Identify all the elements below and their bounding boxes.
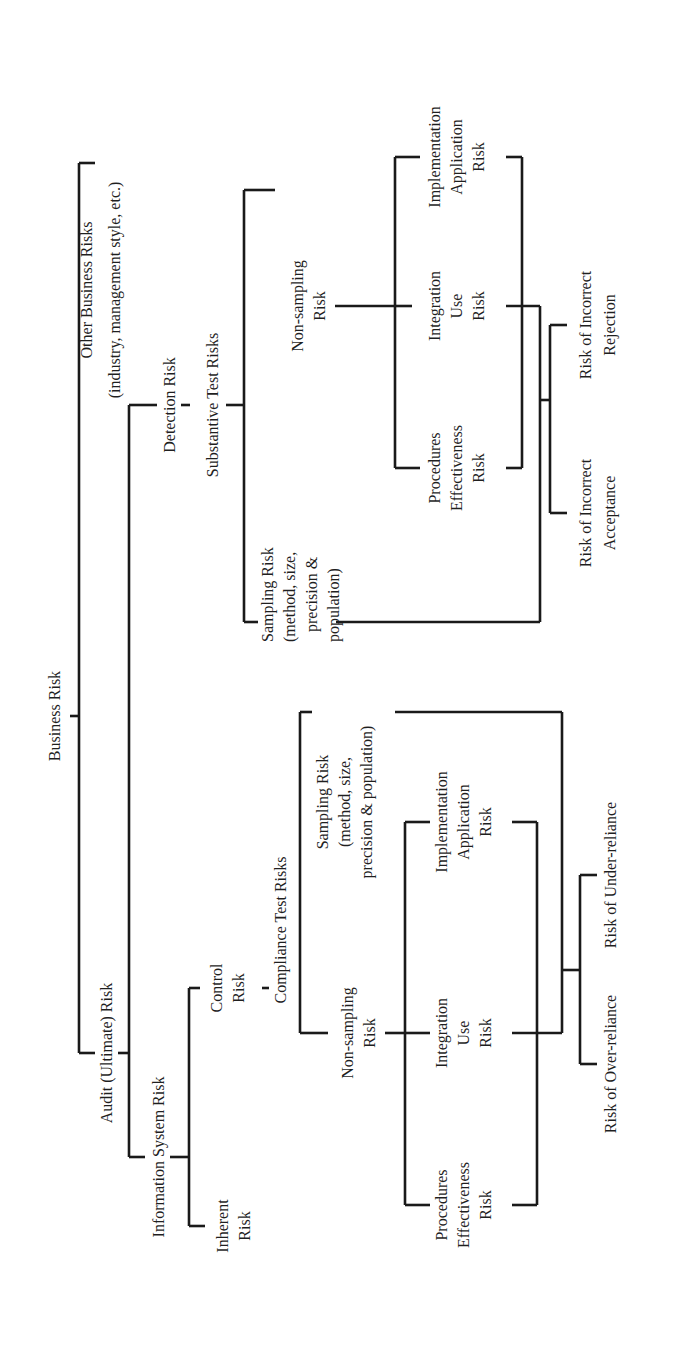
incorrect-rejection-line1: Risk of Incorrect (577, 270, 594, 379)
node-compliance-test-risks: Compliance Test Risks (272, 856, 290, 1003)
inherent-risk-line1: Inherent (214, 1199, 231, 1253)
node-compliance-integration-risk: Integration Use Risk (433, 998, 494, 1068)
detection-risk-label: Detection Risk (161, 357, 178, 453)
control-risk-line1: Control (208, 963, 225, 1012)
node-other-business-risks: Other Business Risks (industry, manageme… (78, 182, 124, 399)
information-system-risk-label: Information System Risk (150, 1077, 168, 1238)
node-substantive-sampling-risk: Sampling Risk (method, size, precision &… (259, 547, 343, 642)
node-audit-risk: Audit (Ultimate) Risk (98, 983, 116, 1123)
compliance-procedures-line3: Risk (477, 1190, 494, 1219)
compliance-integration-line1: Integration (433, 998, 451, 1068)
node-risk-over-reliance: Risk of Over-reliance (602, 995, 619, 1133)
substantive-procedures-line1: Procedures (426, 432, 443, 503)
risk-hierarchy-diagram: Business Risk Other Business Risks (indu… (0, 0, 673, 1351)
node-substantive-implementation-risk: Implementation Application Risk (426, 106, 487, 207)
node-compliance-procedures-risk: Procedures Effectiveness Risk (433, 1162, 494, 1248)
node-compliance-implementation-risk: Implementation Application Risk (433, 771, 494, 872)
substantive-procedures-line2: Effectiveness (448, 425, 465, 511)
node-inherent-risk: Inherent Risk (214, 1199, 253, 1253)
substantive-procedures-line3: Risk (470, 453, 487, 482)
node-substantive-test-risks: Substantive Test Risks (204, 333, 221, 477)
substantive-implementation-line2: Application (448, 119, 466, 195)
under-reliance-label: Risk of Under-reliance (602, 802, 619, 948)
substantive-integration-line3: Risk (470, 291, 487, 320)
other-business-risks-detail: (industry, management style, etc.) (106, 182, 124, 399)
substantive-non-sampling-line2: Risk (311, 291, 328, 320)
compliance-procedures-line2: Effectiveness (455, 1162, 472, 1248)
node-substantive-integration-risk: Integration Use Risk (426, 271, 487, 341)
node-risk-incorrect-acceptance: Risk of Incorrect Acceptance (577, 458, 619, 567)
compliance-implementation-line2: Application (455, 784, 473, 860)
substantive-integration-line1: Integration (426, 271, 444, 341)
substantive-implementation-line1: Implementation (426, 106, 444, 207)
compliance-sampling-line3: precision & population) (358, 726, 376, 879)
business-risk-label: Business Risk (46, 671, 63, 761)
control-risk-line2: Risk (230, 973, 247, 1002)
node-control-risk: Control Risk (208, 963, 247, 1012)
substantive-test-risks-label: Substantive Test Risks (204, 333, 221, 477)
node-compliance-non-sampling-risk: Non-sampling Risk (339, 987, 378, 1079)
compliance-integration-line3: Risk (477, 1018, 494, 1047)
substantive-sampling-line3: precision & (303, 556, 321, 632)
substantive-implementation-line3: Risk (470, 142, 487, 171)
substantive-sampling-line1: Sampling Risk (259, 547, 277, 642)
node-risk-under-reliance: Risk of Under-reliance (602, 802, 619, 948)
compliance-implementation-line1: Implementation (433, 771, 451, 872)
audit-risk-label: Audit (Ultimate) Risk (98, 983, 116, 1123)
compliance-non-sampling-line1: Non-sampling (339, 987, 357, 1079)
substantive-integration-line2: Use (448, 294, 465, 319)
incorrect-rejection-line2: Rejection (601, 294, 619, 355)
compliance-test-risks-label: Compliance Test Risks (272, 856, 290, 1003)
inherent-risk-line2: Risk (236, 1211, 253, 1240)
node-risk-incorrect-rejection: Risk of Incorrect Rejection (577, 270, 619, 379)
node-substantive-non-sampling-risk: Non-sampling Risk (289, 260, 328, 352)
connector-lines (70, 157, 597, 1226)
other-business-risks-label: Other Business Risks (78, 222, 95, 359)
node-compliance-sampling-risk: Sampling Risk (method, size, precision &… (314, 726, 376, 879)
compliance-integration-line2: Use (455, 1021, 472, 1046)
compliance-implementation-line3: Risk (477, 807, 494, 836)
substantive-non-sampling-line1: Non-sampling (289, 260, 307, 352)
incorrect-acceptance-line2: Acceptance (601, 476, 619, 551)
substantive-sampling-line2: (method, size, (281, 552, 299, 642)
node-substantive-procedures-risk: Procedures Effectiveness Risk (426, 425, 487, 511)
node-business-risk: Business Risk (46, 671, 63, 761)
over-reliance-label: Risk of Over-reliance (602, 995, 619, 1133)
compliance-procedures-line1: Procedures (433, 1169, 450, 1240)
compliance-sampling-line1: Sampling Risk (314, 755, 332, 850)
node-detection-risk: Detection Risk (161, 357, 178, 453)
compliance-sampling-line2: (method, size, (336, 757, 354, 847)
compliance-non-sampling-line2: Risk (361, 1018, 378, 1047)
substantive-sampling-line4: population) (325, 568, 343, 642)
incorrect-acceptance-line1: Risk of Incorrect (577, 458, 594, 567)
node-information-system-risk: Information System Risk (150, 1077, 168, 1238)
